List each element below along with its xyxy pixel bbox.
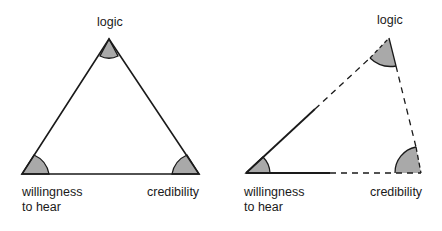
label-willingness-right-line1: willingness (244, 185, 304, 200)
complete-triangle (22, 39, 199, 174)
label-logic-left: logic (97, 15, 123, 30)
edge-willingness-logic-solid (246, 109, 315, 173)
label-logic-right: logic (377, 13, 403, 28)
angle-wedge-credibility (172, 155, 199, 174)
label-willingness-left-line1: willingness (22, 185, 82, 200)
edge-willingness-logic-dashed (315, 58, 370, 109)
label-willingness-right-line2: to hear (244, 200, 283, 215)
label-willingness-left-line2: to hear (22, 200, 61, 215)
label-credibility-right: credibility (370, 185, 422, 200)
broken-triangle (246, 38, 421, 173)
angle-wedge-willingness (22, 155, 49, 174)
triangle-outline (22, 39, 199, 174)
edge-logic-credibility-dashed (396, 66, 416, 147)
label-credibility-left: credibility (147, 185, 199, 200)
